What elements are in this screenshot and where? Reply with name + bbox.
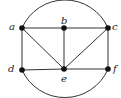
edge-d-e (22, 69, 64, 70)
vertex-label-b: b (61, 16, 67, 26)
vertex-label-e: e (61, 74, 67, 84)
edge-a-e (22, 28, 64, 69)
vertex-label-c: c (112, 22, 118, 32)
vertex-a (19, 25, 25, 31)
graph-vertices (19, 25, 111, 73)
graph-edges (22, 28, 108, 70)
vertex-label-a: a (9, 22, 15, 32)
vertex-d (19, 67, 25, 73)
vertex-e (61, 66, 67, 72)
edge-c-e (64, 28, 108, 69)
vertex-label-f: f (113, 64, 117, 74)
vertex-f (105, 66, 111, 72)
vertex-label-d: d (8, 64, 14, 74)
vertex-b (61, 25, 67, 31)
vertex-c (105, 25, 111, 31)
